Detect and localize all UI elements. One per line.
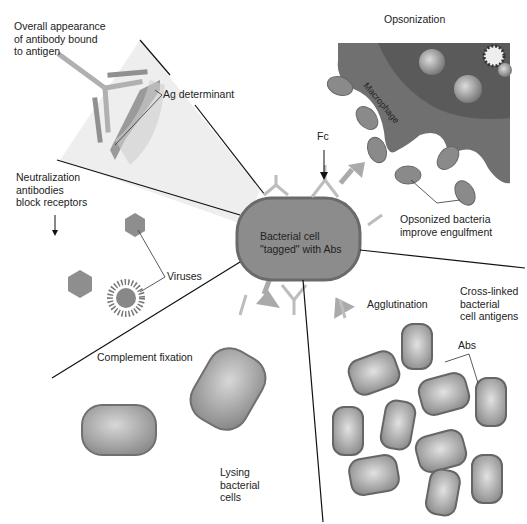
cross-linked-caption: Cross-linked bacterial cell antigens <box>460 285 518 323</box>
antibody-function-diagram: Overall appearance of antibody bound to … <box>0 0 527 524</box>
viruses-label: Viruses <box>167 270 202 283</box>
opsonization-title: Opsonization <box>384 13 445 26</box>
diagram-graphics <box>0 0 527 524</box>
antibody-detail-wedge <box>57 40 265 225</box>
fc-label: Fc <box>317 130 329 143</box>
lysing-caption: Lysing bacterial cells <box>220 466 260 504</box>
complement-fixation-title: Complement fixation <box>97 351 193 364</box>
ag-determinant-label: Ag determinant <box>163 88 234 101</box>
agglutinated-cells <box>333 324 506 517</box>
agglutination-title: Agglutination <box>367 298 428 311</box>
neutralization-caption: Neutralization antibodies block receptor… <box>16 171 87 209</box>
abs-label: Abs <box>458 339 476 352</box>
virus-icons <box>52 213 165 314</box>
antibody-binding-caption: Overall appearance of antibody bound to … <box>14 20 106 58</box>
central-cell-label: Bacterial cell "tagged" with Abs <box>260 230 342 255</box>
opsonized-caption: Opsonized bacteria improve engulfment <box>400 213 492 238</box>
